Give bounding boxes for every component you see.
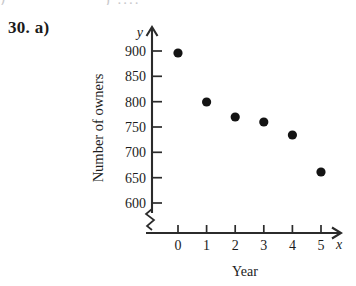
x-tick-label: 2	[232, 238, 239, 253]
data-point	[202, 97, 211, 106]
data-point	[173, 48, 182, 57]
x-tick-label: 0	[175, 238, 182, 253]
data-point	[259, 117, 268, 126]
x-tick-label: 3	[260, 238, 267, 253]
x-tick-label: 4	[289, 238, 296, 253]
y-tick-label: 750	[125, 120, 146, 135]
x-axis-caption: Year	[232, 264, 258, 279]
y-tick-label: 900	[125, 44, 146, 59]
y-axis-title: Number of owners	[90, 73, 106, 182]
y-axis-ticks	[152, 51, 162, 203]
y-tick-label: 850	[125, 69, 146, 84]
x-tick-label: 1	[203, 238, 210, 253]
figure-page: ) ) .... 30. a) Number of owners y x	[0, 0, 356, 286]
scatter-plot: Number of owners y x	[0, 0, 356, 286]
y-axis-name: y	[135, 25, 144, 40]
x-axis-tick-labels: 0 1 2 3 4 5	[175, 238, 325, 253]
data-point	[288, 130, 297, 139]
data-points	[173, 48, 325, 176]
y-tick-label: 650	[125, 171, 146, 186]
x-tick-label: 5	[318, 238, 325, 253]
y-tick-label: 600	[125, 196, 146, 211]
data-point	[231, 112, 240, 121]
y-tick-label: 800	[125, 95, 146, 110]
y-tick-label: 700	[125, 145, 146, 160]
data-point	[316, 167, 325, 176]
x-axis-name: x	[335, 237, 343, 252]
y-axis	[147, 27, 158, 213]
y-axis-tick-labels: 600 650 700 750 800 850 900	[125, 44, 146, 211]
x-axis-ticks	[178, 225, 321, 233]
x-axis	[146, 228, 341, 239]
